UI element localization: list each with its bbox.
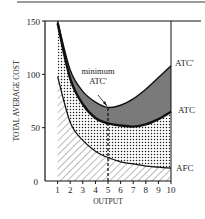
y-tick-label: 0: [34, 177, 39, 187]
atc-label: ATC: [178, 105, 195, 115]
minimum-label-line2: ATC': [89, 76, 107, 86]
x-tick-label: 1: [55, 185, 60, 195]
afc-label: AFC: [176, 163, 194, 173]
chart: 05010015012345678910 OUTPUTTOTAL AVERAGE…: [0, 0, 205, 219]
x-axis-label: OUTPUT: [93, 197, 123, 206]
y-tick-label: 100: [27, 70, 41, 80]
x-tick-label: 4: [93, 185, 98, 195]
x-tick-label: 5: [106, 185, 111, 195]
atc-prime-label: ATC': [175, 58, 194, 68]
x-tick-label: 3: [81, 185, 86, 195]
x-tick-label: 6: [118, 185, 123, 195]
x-tick-label: 7: [131, 185, 136, 195]
y-tick-label: 150: [27, 17, 41, 27]
y-axis-label: TOTAL AVERAGE COST: [12, 60, 21, 141]
x-tick-label: 2: [68, 185, 73, 195]
x-tick-label: 10: [167, 185, 177, 195]
x-tick-label: 8: [144, 185, 149, 195]
minimum-label-line1: minimum: [81, 66, 114, 76]
y-tick-label: 50: [31, 123, 41, 133]
x-tick-label: 9: [156, 185, 161, 195]
